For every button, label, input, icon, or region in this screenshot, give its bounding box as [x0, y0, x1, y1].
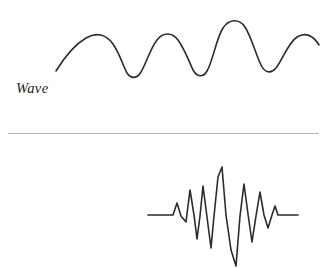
wave-packet-curve-svg — [0, 134, 331, 268]
wave-curve-svg — [0, 0, 331, 133]
wave-packet-curve-path — [148, 167, 298, 266]
wave-curve-path — [56, 21, 319, 78]
wave-caption-label: Wave — [16, 80, 48, 97]
wave-figure: Wave Wave Packet — [0, 0, 331, 268]
wave-packet-panel: Wave Packet — [0, 134, 331, 268]
wave-panel: Wave — [0, 0, 331, 133]
